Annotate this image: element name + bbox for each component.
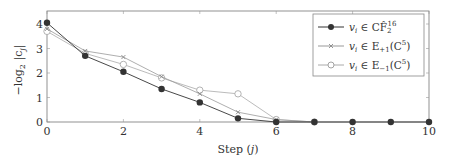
data-point	[44, 20, 50, 26]
y-tick-label: 0	[36, 116, 43, 129]
data-point	[235, 91, 241, 97]
y-tick-label: 2	[36, 67, 43, 80]
y-axis-label: −log2 |cj|	[12, 44, 27, 95]
data-point	[426, 119, 432, 125]
data-point	[388, 119, 394, 125]
y-tick-label: 1	[36, 92, 43, 105]
series-1	[45, 27, 316, 124]
data-point	[235, 115, 241, 121]
data-point	[82, 53, 88, 59]
data-point	[197, 99, 203, 105]
x-tick-label: 6	[273, 125, 280, 138]
x-tick-label: 2	[120, 125, 127, 138]
legend: vi ∈ CF̂216 vi ∈ E+1(C5) vi ∈ E−1(C5)	[313, 14, 424, 76]
x-axis-label: Step (j)	[217, 143, 258, 156]
x-tick-label: 0	[44, 125, 51, 138]
line-chart: 0246810 01234 Step (j) −log2 |cj| vi ∈ C…	[0, 0, 449, 163]
data-point	[120, 61, 126, 67]
data-point	[120, 69, 126, 75]
x-tick-label: 8	[349, 125, 356, 138]
data-point	[273, 119, 279, 125]
y-tick-label: 3	[36, 43, 43, 56]
open-circle-marker-icon	[328, 62, 334, 68]
y-tick-label: 4	[36, 18, 43, 31]
filled-circle-marker-icon	[328, 24, 334, 30]
data-point	[311, 119, 317, 125]
data-point	[349, 119, 355, 125]
x-tick-label: 10	[422, 125, 436, 138]
x-tick-label: 4	[196, 125, 203, 138]
data-point	[158, 86, 164, 92]
series-2	[44, 28, 318, 125]
